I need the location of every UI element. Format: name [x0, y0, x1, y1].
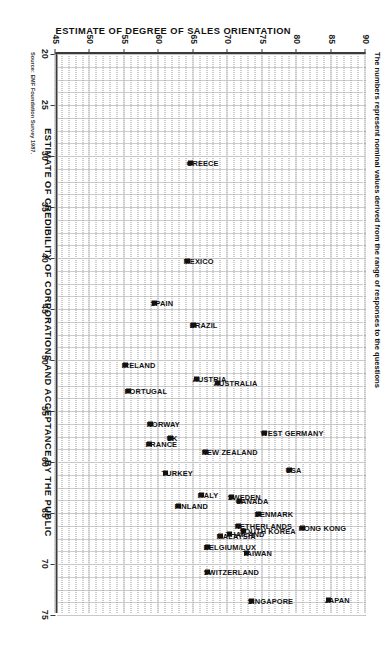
data-point-label: HONG KONG — [298, 524, 346, 533]
x-gridline-major — [57, 207, 365, 208]
y-gridline — [102, 54, 103, 613]
y-gridline — [95, 54, 96, 613]
y-gridline — [116, 54, 117, 613]
chart-source: Source: EMF Foundation Survey 1987. — [29, 52, 35, 154]
data-point-label: BELGIUM/LUX — [203, 543, 256, 552]
chart-page: The numbers represent nominal values der… — [0, 0, 387, 646]
data-point-label: SPAIN — [150, 299, 173, 308]
y-gridline — [82, 54, 83, 613]
y-gridline — [144, 54, 145, 613]
y-tick-label: 80 — [291, 35, 301, 44]
y-gridline — [350, 54, 351, 613]
y-tick — [364, 49, 365, 54]
x-tick — [50, 615, 55, 616]
data-point-label: FRANCE — [145, 440, 177, 449]
y-gridline — [164, 54, 165, 613]
data-point-label: FINLAND — [174, 502, 207, 511]
y-gridline-major — [192, 54, 193, 613]
x-gridline-major — [57, 462, 365, 463]
data-point-label: AUSTRIA — [192, 375, 226, 384]
y-gridline — [68, 54, 69, 613]
data-point-label: NORWAY — [146, 420, 179, 429]
y-axis-title: ESTIMATE OF DEGREE OF SALES ORIENTATION — [55, 26, 291, 36]
data-point-label: MEXICO — [183, 257, 213, 266]
y-gridline — [185, 54, 186, 613]
y-gridline — [137, 54, 138, 613]
y-gridline — [109, 54, 110, 613]
y-tick — [192, 49, 193, 54]
data-point-label: SWEDEN — [227, 493, 260, 502]
data-point-label: WEST GERMANY — [260, 429, 323, 438]
data-point-label: ITALY — [197, 491, 218, 500]
y-gridline-major — [54, 54, 55, 613]
y-tick — [54, 49, 55, 54]
y-gridline — [199, 54, 200, 613]
data-point-label: TURKEY — [161, 469, 192, 478]
data-point-label: IRELAND — [121, 361, 155, 370]
y-gridline — [61, 54, 62, 613]
y-gridline-major — [157, 54, 158, 613]
y-gridline-major — [123, 54, 124, 613]
y-gridline — [171, 54, 172, 613]
y-gridline-major — [364, 54, 365, 613]
x-gridline-major — [57, 54, 365, 55]
y-gridline-major — [88, 54, 89, 613]
data-point-label: MALAYSIA — [216, 532, 255, 541]
data-point-label: PORTUGAL — [124, 387, 167, 396]
y-tick — [123, 49, 124, 54]
y-tick — [157, 49, 158, 54]
data-point-label: SWITZERLAND — [203, 568, 258, 577]
x-gridline-major — [57, 411, 365, 412]
data-point-label: NEW ZEALAND — [201, 448, 257, 457]
x-gridline-major — [57, 615, 365, 616]
y-gridline — [206, 54, 207, 613]
y-gridline — [212, 54, 213, 613]
y-tick — [226, 49, 227, 54]
x-gridline-major — [57, 513, 365, 514]
y-gridline — [130, 54, 131, 613]
y-tick — [330, 49, 331, 54]
x-gridline-major — [57, 564, 365, 565]
data-point-label: JAPAN — [325, 596, 350, 605]
data-point-label: USA — [285, 466, 301, 475]
y-gridline — [357, 54, 358, 613]
y-gridline — [178, 54, 179, 613]
y-gridline — [150, 54, 151, 613]
y-tick-label: 85 — [326, 35, 336, 44]
y-tick — [261, 49, 262, 54]
y-gridline — [75, 54, 76, 613]
y-gridline — [219, 54, 220, 613]
chart-note: The numbers represent nominal values der… — [372, 52, 381, 388]
x-axis-title: ESTIMATE OF CREDIBILITY OF CORPORATIONS … — [42, 52, 52, 613]
x-gridline-major — [57, 309, 365, 310]
y-tick — [295, 49, 296, 54]
rotated-chart-canvas: The numbers represent nominal values der… — [0, 0, 387, 646]
y-tick — [88, 49, 89, 54]
data-point-label: BRAZIL — [189, 321, 217, 330]
x-gridline-major — [57, 360, 365, 361]
data-point-label: SINGAPORE — [247, 597, 293, 606]
y-tick-label: 90 — [360, 35, 370, 44]
plot-area: 2025303540455055606570754550556065707580… — [55, 52, 365, 613]
x-gridline-major — [57, 156, 365, 157]
data-point-label: DENMARK — [254, 510, 293, 519]
x-gridline-major — [57, 105, 365, 106]
data-point-label: GREECE — [186, 159, 218, 168]
